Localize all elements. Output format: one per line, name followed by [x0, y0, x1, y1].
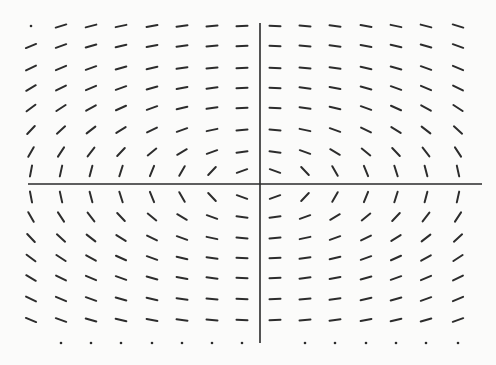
- slope-segment: [177, 236, 187, 240]
- slope-segment: [237, 169, 247, 173]
- slope-segment: [364, 192, 368, 202]
- slope-segment: [147, 298, 158, 300]
- field-dot: [90, 342, 93, 345]
- slope-segment: [300, 298, 311, 299]
- slope-segment: [150, 166, 154, 176]
- slope-field-diagram: [0, 0, 496, 365]
- slope-segment: [270, 169, 280, 173]
- slope-segment: [423, 213, 430, 222]
- slope-segment: [208, 193, 216, 201]
- slope-segment: [391, 66, 402, 69]
- slope-segment: [453, 86, 463, 91]
- slope-segment: [361, 277, 372, 280]
- slope-segment: [361, 128, 371, 133]
- slope-segment: [361, 67, 372, 69]
- slope-segment: [27, 255, 36, 262]
- slope-segment: [86, 255, 96, 260]
- slope-segment: [361, 25, 372, 27]
- slope-segment: [117, 148, 125, 156]
- slope-segment: [26, 297, 36, 302]
- slope-segment: [421, 66, 431, 70]
- slope-segment: [30, 166, 32, 177]
- slope-segment: [177, 67, 188, 69]
- slope-segment: [361, 236, 371, 241]
- slope-segment: [391, 45, 402, 48]
- slope-segment: [392, 148, 400, 156]
- slope-segment: [207, 150, 217, 154]
- slope-segment: [148, 214, 157, 221]
- slope-segment: [56, 318, 66, 322]
- slope-segment: [26, 44, 36, 48]
- slope-segment: [392, 213, 400, 221]
- slope-segment: [300, 257, 311, 259]
- slope-segment: [361, 256, 371, 260]
- field-dot: [241, 342, 244, 345]
- slope-segment: [361, 87, 372, 90]
- slope-segment: [117, 213, 125, 221]
- field-dot: [151, 342, 154, 345]
- slope-segment: [56, 297, 66, 301]
- slope-segment: [270, 108, 281, 109]
- slope-segment: [150, 192, 154, 202]
- slope-segment: [116, 297, 127, 300]
- slope-segment: [362, 214, 371, 221]
- slope-segment: [116, 276, 126, 280]
- slope-segment: [454, 234, 462, 241]
- slope-segment: [56, 86, 66, 91]
- slope-segment: [453, 105, 462, 111]
- slope-segment: [56, 105, 65, 111]
- slope-segment: [454, 126, 462, 133]
- slope-segment: [300, 215, 310, 219]
- slope-segment: [28, 212, 33, 222]
- slope-segment: [147, 128, 157, 133]
- slope-segment: [301, 193, 309, 201]
- slope-segment: [391, 235, 400, 241]
- slope-segment: [58, 212, 64, 221]
- field-dot: [211, 342, 214, 345]
- slope-segment: [300, 129, 311, 131]
- slope-segment: [179, 166, 184, 176]
- slope-segment: [421, 25, 432, 28]
- slope-segment: [237, 151, 248, 152]
- slope-segment: [453, 24, 464, 27]
- slope-segment: [27, 105, 36, 112]
- slope-segment: [86, 25, 97, 28]
- slope-segment: [86, 318, 97, 321]
- slope-segment: [207, 298, 218, 299]
- slope-segment: [423, 148, 430, 157]
- slope-segment: [391, 297, 402, 300]
- slope-segment: [332, 192, 337, 202]
- slope-segment: [391, 276, 401, 280]
- slope-segment: [421, 44, 432, 47]
- slope-segment: [425, 192, 428, 203]
- slope-segment: [119, 166, 122, 176]
- slope-segment: [455, 212, 461, 221]
- slope-segment: [237, 216, 248, 217]
- slope-segment: [361, 106, 371, 110]
- slope-segment: [394, 166, 397, 176]
- slope-segment: [457, 192, 459, 203]
- slope-segment: [300, 46, 311, 47]
- slope-segment: [177, 45, 188, 46]
- slope-segment: [26, 318, 36, 322]
- slope-segment: [56, 255, 65, 261]
- slope-segment: [147, 67, 158, 69]
- slope-segment: [177, 298, 188, 300]
- slope-segment: [177, 319, 188, 320]
- slope-segment: [87, 235, 96, 242]
- slope-segment: [421, 105, 431, 110]
- slope-segment: [207, 26, 218, 27]
- slope-segment: [300, 26, 311, 27]
- slope-segment: [270, 130, 281, 131]
- slope-segment: [207, 67, 218, 68]
- slope-segment: [453, 318, 463, 322]
- slope-segment: [207, 215, 217, 219]
- slope-segment: [330, 45, 341, 46]
- slope-segment: [391, 256, 401, 261]
- slope-segment: [332, 166, 337, 176]
- slope-segment: [453, 297, 463, 301]
- slope-segment: [86, 105, 96, 110]
- field-dot: [181, 342, 184, 345]
- slope-segment: [362, 149, 371, 156]
- field-dot: [457, 342, 460, 345]
